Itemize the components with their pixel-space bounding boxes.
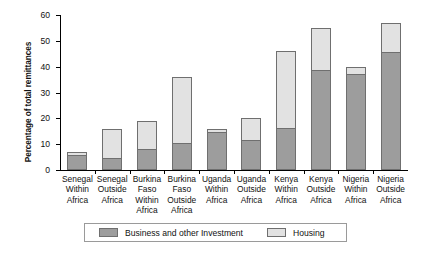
bar-segment-housing bbox=[102, 129, 122, 158]
bar-segment-business bbox=[346, 74, 366, 170]
y-tick-label: 50 bbox=[40, 37, 50, 46]
x-axis-label-line: Senegal bbox=[60, 174, 95, 184]
bar-stack[interactable] bbox=[207, 129, 227, 170]
x-axis-label: UgandaOutsideAfrica bbox=[234, 174, 269, 205]
x-axis-label-line: Within bbox=[199, 184, 234, 194]
y-axis-line bbox=[60, 15, 61, 170]
legend-swatch-housing bbox=[267, 228, 286, 237]
x-axis-label-line: Africa bbox=[95, 195, 130, 205]
y-tick: 10 bbox=[56, 144, 60, 145]
x-axis-label-line: Senegal bbox=[95, 174, 130, 184]
x-axis-label-line: Within bbox=[338, 184, 373, 194]
x-axis-label-line: Kenya bbox=[269, 174, 304, 184]
x-axis-label-line: Outside bbox=[304, 184, 339, 194]
x-axis-label-line: Nigeria bbox=[373, 174, 408, 184]
y-tick-label: 40 bbox=[40, 62, 50, 71]
y-tick: 20 bbox=[56, 118, 60, 119]
x-axis-label-line: Burkina bbox=[130, 174, 165, 184]
x-axis-label-line: Outside bbox=[95, 184, 130, 194]
x-axis-label: KenyaWithinAfrica bbox=[269, 174, 304, 205]
x-axis-label: UgandaWithinAfrica bbox=[199, 174, 234, 205]
bar-segment-housing bbox=[172, 77, 192, 143]
bar-stack[interactable] bbox=[311, 28, 331, 170]
plot-area: 0102030405060 bbox=[60, 15, 408, 170]
x-axis-label-line: Within bbox=[60, 184, 95, 194]
bar-segment-housing bbox=[346, 67, 366, 74]
bar-segment-housing bbox=[311, 28, 331, 70]
x-axis-label-line: Africa bbox=[269, 195, 304, 205]
bar-stack[interactable] bbox=[276, 51, 296, 170]
x-axis-label-line: Africa bbox=[373, 195, 408, 205]
bar-segment-business bbox=[207, 132, 227, 170]
legend-item-business: Business and other Investment bbox=[99, 228, 243, 238]
bar-segment-business bbox=[102, 158, 122, 170]
bar-segment-business bbox=[241, 140, 261, 170]
x-axis-label: NigeriaWithinAfrica bbox=[338, 174, 373, 205]
y-tick: 40 bbox=[56, 67, 60, 68]
x-axis-label-line: Africa bbox=[234, 195, 269, 205]
x-axis-label-line: Uganda bbox=[234, 174, 269, 184]
bar-stack[interactable] bbox=[172, 77, 192, 170]
legend-label-business: Business and other Investment bbox=[125, 228, 243, 238]
x-axis-label: NigeriaOutsideAfrica bbox=[373, 174, 408, 205]
x-axis-label-line: Africa bbox=[199, 195, 234, 205]
x-axis-label-line: Africa bbox=[338, 195, 373, 205]
y-tick: 60 bbox=[56, 15, 60, 16]
bar-stack[interactable] bbox=[67, 152, 87, 170]
legend-item-housing: Housing bbox=[267, 228, 325, 238]
x-axis-label: BurkinaFasoWithinAfrica bbox=[130, 174, 165, 216]
x-axis-label-line: Within bbox=[269, 184, 304, 194]
y-tick: 50 bbox=[56, 41, 60, 42]
bar-segment-business bbox=[172, 143, 192, 170]
x-axis-label-line: Burkina bbox=[164, 174, 199, 184]
bar-stack[interactable] bbox=[241, 118, 261, 170]
legend-swatch-business bbox=[99, 228, 118, 237]
bar-segment-business bbox=[311, 70, 331, 170]
y-tick-label: 10 bbox=[40, 140, 50, 149]
x-axis-label-line: Outside bbox=[234, 184, 269, 194]
y-tick: 0 bbox=[56, 170, 60, 171]
y-tick-label: 20 bbox=[40, 114, 50, 123]
bar-stack[interactable] bbox=[102, 129, 122, 170]
chart-figure: Percentage of total remittances 01020304… bbox=[0, 0, 431, 257]
x-axis-labels: SenegalWithinAfricaSenegalOutsideAfricaB… bbox=[60, 174, 408, 220]
x-axis-label-line: Uganda bbox=[199, 174, 234, 184]
y-axis-title: Percentage of total remittances bbox=[23, 12, 33, 192]
bar-segment-housing bbox=[137, 121, 157, 149]
x-axis-label-line: Africa bbox=[60, 195, 95, 205]
bar-segment-housing bbox=[381, 23, 401, 52]
bar-segment-housing bbox=[276, 51, 296, 128]
x-axis-label-line: Nigeria bbox=[338, 174, 373, 184]
bar-segment-business bbox=[381, 52, 401, 170]
bar-segment-business bbox=[276, 128, 296, 170]
y-tick-label: 0 bbox=[45, 166, 50, 175]
x-axis-label-line: Outside bbox=[164, 195, 199, 205]
bar-stack[interactable] bbox=[137, 121, 157, 170]
bar-segment-housing bbox=[241, 118, 261, 140]
x-axis-label-line: Within bbox=[130, 195, 165, 205]
y-tick-label: 60 bbox=[40, 11, 50, 20]
x-axis-label-line: Outside bbox=[373, 184, 408, 194]
bar-segment-business bbox=[67, 155, 87, 170]
x-axis-label: SenegalWithinAfrica bbox=[60, 174, 95, 205]
bar-segment-business bbox=[137, 149, 157, 170]
x-axis-label-line: Faso bbox=[164, 184, 199, 194]
chart-legend: Business and other Investment Housing bbox=[84, 223, 347, 242]
x-axis-label: KenyaOutsideAfrica bbox=[304, 174, 339, 205]
x-axis-label-line: Africa bbox=[164, 205, 199, 215]
x-axis-label: BurkinaFasoOutsideAfrica bbox=[164, 174, 199, 216]
bar-stack[interactable] bbox=[381, 23, 401, 170]
legend-label-housing: Housing bbox=[293, 228, 325, 238]
x-axis-label: SenegalOutsideAfrica bbox=[95, 174, 130, 205]
x-axis-label-line: Kenya bbox=[304, 174, 339, 184]
bar-stack[interactable] bbox=[346, 67, 366, 170]
x-axis-label-line: Africa bbox=[304, 195, 339, 205]
x-axis-label-line: Faso bbox=[130, 184, 165, 194]
y-tick-label: 30 bbox=[40, 88, 50, 97]
x-axis-label-line: Africa bbox=[130, 205, 165, 215]
y-tick: 30 bbox=[56, 93, 60, 94]
